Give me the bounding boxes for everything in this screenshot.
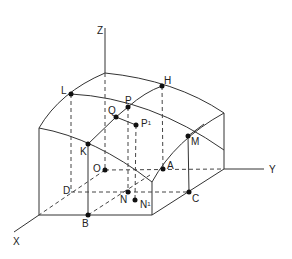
- point-M: [186, 134, 191, 139]
- label-D: D: [63, 186, 70, 196]
- label-O: O: [93, 164, 101, 174]
- axis-label-x: X: [13, 237, 20, 247]
- label-P1-sup: 1: [148, 120, 151, 126]
- m-h-link: [188, 124, 204, 136]
- point-B: [86, 213, 91, 218]
- label-K: K: [80, 147, 87, 157]
- hidden-vertical-H: [162, 86, 163, 169]
- solid-element-drawing: [0, 0, 292, 259]
- label-L: L: [61, 86, 67, 96]
- label-N1: N1: [140, 200, 151, 210]
- point-C: [187, 190, 192, 195]
- label-B: B: [82, 219, 89, 229]
- label-Q: Q: [108, 106, 116, 116]
- label-P1: P1: [141, 119, 151, 129]
- m-c-line: [188, 136, 189, 192]
- label-N: N: [120, 195, 127, 205]
- q-p1-line: [116, 117, 136, 125]
- label-M: M: [191, 137, 199, 147]
- label-H: H: [164, 76, 171, 86]
- label-A: A: [167, 161, 174, 171]
- label-P1-base: P: [141, 118, 148, 129]
- label-C: C: [192, 194, 199, 204]
- point-P1: [134, 123, 139, 128]
- hidden-vertical-P1: [135, 125, 136, 200]
- label-P: P: [125, 96, 132, 106]
- axis-label-z: Z: [97, 26, 103, 36]
- top-left-edge: [39, 73, 105, 128]
- label-N1-sup: 1: [147, 201, 150, 207]
- point-A: [161, 167, 166, 172]
- x-axis: [14, 215, 39, 232]
- diagram-canvas: X Y Z L H P Q P1 K M O A D N N1 C B: [0, 0, 292, 259]
- axis-label-y: Y: [269, 165, 276, 175]
- point-L: [69, 92, 74, 97]
- point-O: [103, 168, 108, 173]
- point-N1: [133, 198, 138, 203]
